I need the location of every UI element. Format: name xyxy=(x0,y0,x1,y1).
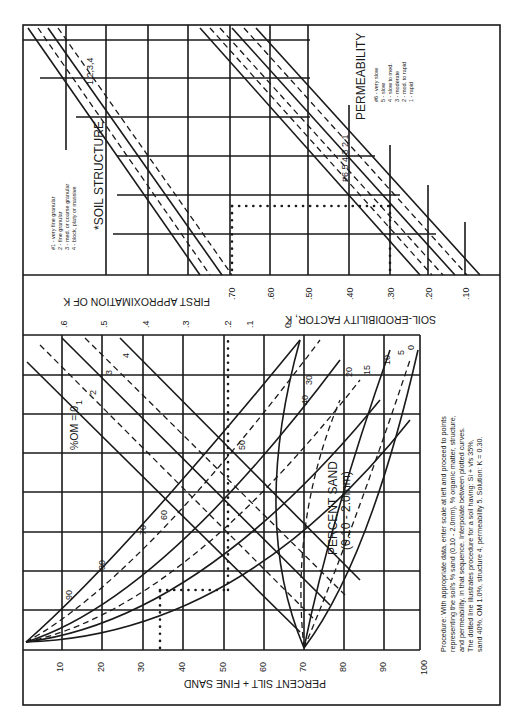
first-approx-ticks: .6 .5 .4 .3 .2 .1 0 xyxy=(59,320,293,328)
svg-text:The dotted line illustrates pr: The dotted line illustrates procedure fo… xyxy=(466,439,475,652)
om-label: %OM = 0 xyxy=(68,406,80,450)
svg-text:.50: .50 xyxy=(304,287,314,300)
svg-text:0: 0 xyxy=(283,323,293,328)
sand-curve-labels: 90 80 70 60 50 40 30 20 15 10 5 0 xyxy=(64,345,416,600)
svg-text:3: 3 xyxy=(104,370,114,375)
svg-text:3 - med. or coarse granular: 3 - med. or coarse granular xyxy=(64,183,70,250)
lower-panel-grid xyxy=(23,335,420,650)
svg-text:and permeability, in that sequ: and permeability, in that sequence. Inte… xyxy=(457,427,466,652)
k-axis-ticks: .70 .60 .50 .40 .30 .20 .10 xyxy=(227,287,471,300)
svg-text:.20: .20 xyxy=(424,287,434,300)
svg-text:0: 0 xyxy=(406,345,416,350)
svg-text:30: 30 xyxy=(304,375,314,385)
svg-text:2 - mod. to rapid: 2 - mod. to rapid xyxy=(401,62,407,102)
soil-structure-legend: #1 - very fine granular 2 - fine granula… xyxy=(50,183,77,250)
svg-text:30: 30 xyxy=(136,662,146,672)
svg-text:2 - fine granular: 2 - fine granular xyxy=(57,211,63,250)
svg-text:4 - slow to med.: 4 - slow to med. xyxy=(387,63,393,102)
soil-structure-title: *SOIL STRUCTURE xyxy=(92,121,106,230)
permeability-title: PERMEABILITY xyxy=(354,33,368,120)
svg-text:50: 50 xyxy=(237,440,247,450)
svg-text:10: 10 xyxy=(55,662,65,672)
svg-text:Procedure: With appropriate da: Procedure: With appropriate data, enter … xyxy=(439,416,448,652)
silt-axis-ticks: 10 20 30 40 50 60 70 80 90 100 xyxy=(55,660,429,675)
svg-text:4: 4 xyxy=(121,353,131,358)
svg-text:80: 80 xyxy=(338,662,348,672)
svg-text:50: 50 xyxy=(218,662,228,672)
svg-text:.6: .6 xyxy=(59,320,69,328)
svg-text:60: 60 xyxy=(159,510,169,520)
procedure-text: Procedure: With appropriate data, enter … xyxy=(439,415,484,652)
svg-text:100: 100 xyxy=(419,660,429,675)
svg-text:1 - rapid: 1 - rapid xyxy=(408,82,414,102)
svg-text:.10: .10 xyxy=(461,287,471,300)
svg-text:.2: .2 xyxy=(223,320,233,328)
svg-text:20: 20 xyxy=(96,662,106,672)
svg-text:40: 40 xyxy=(300,395,310,405)
sand-size-label: (0.10 - 2.0mm) xyxy=(339,471,353,550)
svg-text:.3: .3 xyxy=(181,320,191,328)
svg-text:40: 40 xyxy=(177,662,187,672)
svg-text:.40: .40 xyxy=(345,287,355,300)
svg-text:2: 2 xyxy=(88,390,98,395)
soil-erodibility-nomograph: 1,2,3,4 *SOIL STRUCTURE #1 - very fine g… xyxy=(0,0,526,720)
svg-text:#6 - very slow: #6 - very slow xyxy=(373,68,379,102)
percent-sand-label: PERCENT SAND xyxy=(326,461,340,555)
svg-text:.60: .60 xyxy=(266,287,276,300)
permeability-curve-labels: #6 5 4 3 2 1 xyxy=(340,134,350,182)
svg-text:sand 40%, OM 1.0%, structure 4: sand 40%, OM 1.0%, structure 4, permeabi… xyxy=(475,436,484,652)
svg-text:.30: .30 xyxy=(386,287,396,300)
svg-text:20: 20 xyxy=(344,367,354,377)
k-axis-title: SOIL-ERODIBILITY FACTOR, K xyxy=(285,314,436,326)
svg-text:.1: .1 xyxy=(245,320,255,328)
svg-text:70: 70 xyxy=(298,662,308,672)
silt-axis-title: PERCENT SILT + FINE SAND xyxy=(184,678,326,690)
svg-text:4 - block, platy or massive: 4 - block, platy or massive xyxy=(71,186,77,250)
svg-text:5 - slow: 5 - slow xyxy=(380,83,386,102)
svg-text:80: 80 xyxy=(97,560,107,570)
svg-text:#1 - very fine granular: #1 - very fine granular xyxy=(50,196,56,250)
svg-text:15: 15 xyxy=(362,365,372,375)
svg-text:70: 70 xyxy=(138,525,148,535)
svg-text:.70: .70 xyxy=(227,287,237,300)
svg-text:10: 10 xyxy=(382,355,392,365)
svg-text:5: 5 xyxy=(396,350,406,355)
svg-text:60: 60 xyxy=(258,662,268,672)
svg-text:1: 1 xyxy=(74,400,84,405)
svg-text:representing the soil's % sand: representing the soil's % sand (0.10 - 2… xyxy=(448,415,457,652)
svg-text:.5: .5 xyxy=(99,320,109,328)
svg-text:3 - moderate: 3 - moderate xyxy=(394,71,400,102)
svg-text:.4: .4 xyxy=(141,320,151,328)
first-approx-title: FIRST APPROXIMATION OF K xyxy=(63,296,210,308)
svg-text:90: 90 xyxy=(378,662,388,672)
permeability-legend: #6 - very slow 5 - slow 4 - slow to med.… xyxy=(373,62,414,102)
svg-text:90: 90 xyxy=(64,590,74,600)
structure-curve-labels: 1,2,3,4 xyxy=(85,57,95,85)
